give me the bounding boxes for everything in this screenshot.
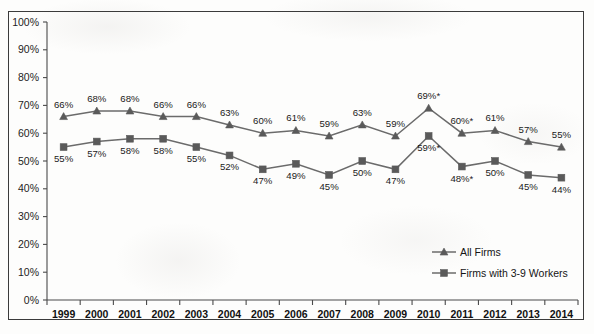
square-marker-icon [458, 163, 465, 170]
square-marker-icon [259, 166, 266, 173]
data-point-label: 69%* [417, 90, 440, 101]
data-point-label: 47% [386, 175, 406, 186]
data-point-label: 44% [552, 184, 572, 195]
data-point-label: 55% [54, 153, 74, 164]
x-tick-label: 2001 [118, 308, 142, 320]
square-marker-icon [525, 172, 532, 179]
x-tick-label: 2013 [517, 308, 541, 320]
square-marker-icon [160, 135, 167, 142]
y-tick-label: 40% [18, 182, 39, 194]
data-point-label: 52% [220, 161, 240, 172]
x-tick-label: 2014 [550, 308, 574, 320]
x-tick-label: 1999 [52, 308, 76, 320]
x-tick-label: 2008 [351, 308, 375, 320]
series-2: 55%57%58%58%55%52%47%49%45%50%47%59%*48%… [54, 133, 571, 195]
y-tick-label: 70% [18, 99, 39, 111]
data-point-label: 61% [286, 112, 306, 123]
x-axis: 1999200020012002200320042005200620072008… [47, 300, 578, 320]
square-marker-icon [492, 158, 499, 165]
square-marker-icon [127, 135, 134, 142]
data-point-label: 68% [120, 93, 140, 104]
data-point-label: 68% [87, 93, 107, 104]
chart-legend: All FirmsFirms with 3-9 Workers [432, 246, 568, 279]
data-point-label: 49% [286, 170, 306, 181]
data-point-label: 66% [54, 99, 74, 110]
data-point-label: 58% [154, 145, 174, 156]
y-tick-label: 0% [24, 294, 39, 306]
data-point-label: 48%* [450, 173, 473, 184]
triangle-marker-icon [425, 104, 433, 111]
x-tick-label: 2004 [218, 308, 242, 320]
x-tick-label: 2000 [85, 308, 109, 320]
x-tick-label: 2003 [185, 308, 209, 320]
data-point-label: 57% [87, 148, 107, 159]
data-point-label: 58% [120, 145, 140, 156]
y-tick-label: 80% [18, 71, 39, 83]
x-tick-label: 2002 [151, 308, 175, 320]
square-marker-icon [293, 160, 300, 167]
square-marker-icon [425, 133, 432, 140]
x-tick-label: 2009 [384, 308, 408, 320]
data-point-label: 66% [187, 99, 207, 110]
line-chart-plot: 0%10%20%30%40%50%60%70%80%90%100%1999200… [0, 0, 594, 334]
y-tick-label: 50% [18, 155, 39, 167]
data-point-label: 63% [353, 107, 373, 118]
data-point-label: 60%* [450, 115, 473, 126]
chart-container: 0%10%20%30%40%50%60%70%80%90%100%1999200… [0, 0, 594, 334]
square-marker-icon [60, 144, 67, 151]
legend-item-label: All Firms [460, 246, 501, 258]
square-marker-icon [93, 138, 100, 145]
data-point-label: 60% [253, 115, 273, 126]
x-tick-label: 2012 [483, 308, 507, 320]
square-marker-icon [193, 144, 200, 151]
legend-item-label: Firms with 3-9 Workers [460, 267, 568, 279]
data-point-label: 59% [319, 118, 339, 129]
data-point-label: 50% [485, 167, 505, 178]
square-marker-icon [558, 174, 565, 181]
square-marker-icon [226, 152, 233, 159]
square-marker-icon [326, 172, 333, 179]
triangle-marker-icon [358, 121, 366, 128]
data-point-label: 63% [220, 107, 240, 118]
data-point-label: 59% [386, 118, 406, 129]
data-point-label: 50% [353, 167, 373, 178]
data-point-label: 45% [319, 181, 339, 192]
data-point-label: 66% [154, 99, 174, 110]
y-axis: 0%10%20%30%40%50%60%70%80%90%100% [12, 16, 47, 306]
y-tick-label: 60% [18, 127, 39, 139]
y-tick-label: 100% [12, 16, 39, 28]
data-point-label: 57% [519, 124, 539, 135]
x-tick-label: 2005 [251, 308, 275, 320]
data-point-label: 61% [485, 112, 505, 123]
data-point-label: 55% [552, 129, 572, 140]
y-tick-label: 90% [18, 43, 39, 55]
y-tick-label: 20% [18, 238, 39, 250]
x-tick-label: 2011 [450, 308, 473, 320]
square-marker-icon [359, 158, 366, 165]
data-point-label: 55% [187, 153, 207, 164]
x-tick-label: 2007 [317, 308, 341, 320]
y-tick-label: 30% [18, 210, 39, 222]
data-point-label: 45% [519, 181, 539, 192]
square-marker-icon [392, 166, 399, 173]
x-tick-label: 2006 [284, 308, 308, 320]
data-point-label: 59%* [417, 142, 440, 153]
y-tick-label: 10% [18, 266, 39, 278]
square-marker-icon [441, 270, 448, 277]
data-point-label: 47% [253, 175, 273, 186]
x-tick-label: 2010 [417, 308, 441, 320]
